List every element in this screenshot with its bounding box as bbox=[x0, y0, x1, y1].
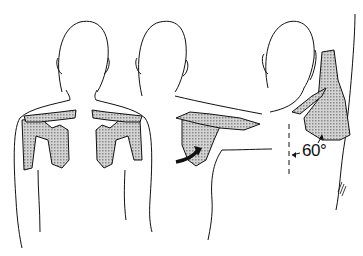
anatomy-illustration bbox=[0, 0, 363, 256]
scapula-right-1 bbox=[92, 110, 142, 168]
angle-label: 60° bbox=[302, 141, 326, 161]
scapula-left-1 bbox=[22, 110, 76, 170]
